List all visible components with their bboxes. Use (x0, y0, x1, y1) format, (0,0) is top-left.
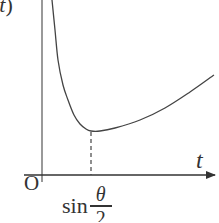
y-axis-label: (t) (0, 0, 13, 16)
y-axis-variable: t (0, 0, 5, 17)
origin-label: O (24, 173, 39, 194)
x-axis-label: t (196, 148, 203, 172)
tick-function: sin (62, 195, 88, 217)
function-curve (52, 0, 214, 131)
tick-denominator: 2 (96, 208, 106, 223)
x-tick-label-minimum: sin θ 2 (62, 184, 112, 222)
tick-numerator: θ (94, 184, 108, 204)
tick-fraction: θ 2 (90, 184, 112, 222)
